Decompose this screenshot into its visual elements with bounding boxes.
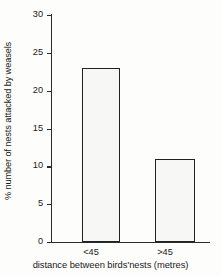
bar-lt45: [82, 68, 120, 242]
y-tick-mark: [47, 129, 52, 130]
y-tick-mark: [47, 15, 52, 16]
x-category-label-0: <45: [62, 247, 120, 257]
y-tick-label: 15: [33, 123, 43, 133]
y-tick-label: 25: [33, 47, 43, 57]
y-tick-label: 5: [38, 198, 43, 208]
bar-chart-figure: % number of nests attacked by weasels 0 …: [0, 0, 221, 276]
bar-gt45: [155, 159, 195, 242]
x-category-label-1: >45: [136, 247, 194, 257]
y-tick-label: 30: [33, 9, 43, 19]
y-tick-mark: [47, 53, 52, 54]
y-tick-label: 0: [38, 236, 43, 246]
y-tick-mark: [47, 166, 52, 167]
x-axis-title: distance between birds'nests (metres): [0, 259, 221, 270]
plot-area: 0 5 10 15 20 25 30: [52, 15, 210, 242]
y-tick-label: 10: [33, 160, 43, 170]
y-tick-mark: [47, 204, 52, 205]
y-tick-mark: [47, 91, 52, 92]
y-tick-mark: [47, 242, 52, 243]
y-axis-title: % number of nests attacked by weasels: [1, 0, 15, 242]
y-tick-label: 20: [33, 85, 43, 95]
